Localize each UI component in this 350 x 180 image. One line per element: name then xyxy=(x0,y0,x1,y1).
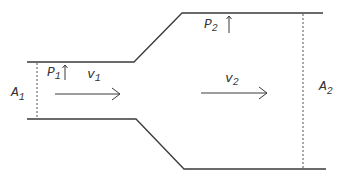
label-v1: v1 xyxy=(87,67,101,84)
pipe-upper-wall xyxy=(27,13,323,62)
label-v2: v2 xyxy=(225,71,239,88)
label-p1: P1 xyxy=(47,65,61,82)
label-a1: A1 xyxy=(10,85,25,103)
pressure-p2-arrow-icon xyxy=(227,16,232,33)
pipe-lower-wall xyxy=(27,119,326,169)
label-a2: A2 xyxy=(318,79,333,97)
pipe-diagram: A1 P1 v1 P2 v2 A2 xyxy=(0,0,350,180)
velocity-v1-arrow-icon xyxy=(55,88,120,100)
pressure-p1-arrow-icon xyxy=(63,65,68,80)
velocity-v2-arrow-icon xyxy=(201,87,267,99)
label-p2: P2 xyxy=(204,17,218,34)
